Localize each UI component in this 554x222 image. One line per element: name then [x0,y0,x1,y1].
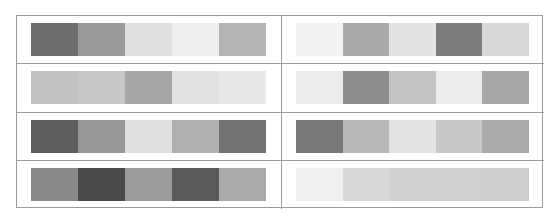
color-swatch [219,120,266,153]
palette-2 [296,23,529,56]
color-swatch [31,168,78,201]
palette-cell [17,64,282,113]
color-swatch [125,23,172,56]
palette-cell [282,113,544,161]
color-swatch [219,168,266,201]
color-swatch [172,71,219,104]
color-swatch [343,23,390,56]
color-swatch [219,23,266,56]
palette-6 [296,120,529,153]
color-swatch [219,71,266,104]
color-swatch [436,168,483,201]
palette-1 [31,23,266,56]
color-swatch [78,120,125,153]
color-swatch [31,71,78,104]
color-swatch [78,71,125,104]
color-swatch [482,23,529,56]
palette-5 [31,120,266,153]
color-swatch [296,23,343,56]
color-swatch [482,71,529,104]
color-swatch [172,23,219,56]
color-swatch [343,120,390,153]
color-swatch [172,168,219,201]
palette-cell [17,161,282,209]
color-swatch [343,71,390,104]
palette-cell [282,16,544,64]
color-swatch [436,71,483,104]
color-swatch [31,120,78,153]
color-swatch [296,71,343,104]
color-swatch [436,23,483,56]
palette-cell [282,161,544,209]
color-swatch [78,168,125,201]
color-swatch [482,168,529,201]
color-swatch [172,120,219,153]
color-swatch [389,23,436,56]
color-swatch [389,71,436,104]
color-swatch [31,23,78,56]
palette-cell [282,64,544,113]
palette-3 [31,71,266,104]
palette-8 [296,168,529,201]
palette-4 [296,71,529,104]
palette-7 [31,168,266,201]
color-swatch [343,168,390,201]
color-swatch [296,120,343,153]
color-swatch [296,168,343,201]
palette-cell [17,113,282,161]
color-swatch [125,120,172,153]
color-swatch [389,168,436,201]
color-swatch [78,23,125,56]
palette-grid [16,15,543,208]
color-swatch [436,120,483,153]
color-swatch [389,120,436,153]
color-swatch [125,71,172,104]
color-swatch [482,120,529,153]
color-swatch [125,168,172,201]
palette-cell [17,16,282,64]
